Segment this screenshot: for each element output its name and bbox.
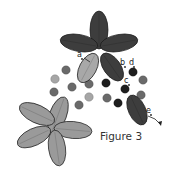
point-marker <box>81 58 83 60</box>
bead <box>102 79 111 88</box>
point-marker <box>150 114 152 116</box>
point-marker <box>124 66 126 68</box>
point-label-a: a <box>77 50 82 59</box>
thread-path-e <box>148 116 160 124</box>
bead <box>68 83 77 92</box>
bead <box>62 66 71 75</box>
diagonal-petal-group <box>73 49 151 128</box>
beading-diagram: abdce Figure 3 <box>0 0 180 175</box>
point-label-b: b <box>120 58 125 67</box>
bead <box>121 85 130 94</box>
bead <box>75 101 84 110</box>
bead <box>129 68 138 77</box>
bead <box>139 76 148 85</box>
dark-flower <box>59 11 139 55</box>
point-label-e: e <box>146 106 151 115</box>
point-marker <box>128 84 130 86</box>
point-label-c: c <box>124 76 128 85</box>
bead <box>51 75 60 84</box>
bead <box>114 99 123 108</box>
point-marker <box>133 66 135 68</box>
figure-caption: Figure 3 <box>100 130 142 142</box>
point-label-d: d <box>129 58 134 67</box>
bead <box>50 88 59 97</box>
bead <box>103 94 112 103</box>
bead <box>85 93 94 102</box>
